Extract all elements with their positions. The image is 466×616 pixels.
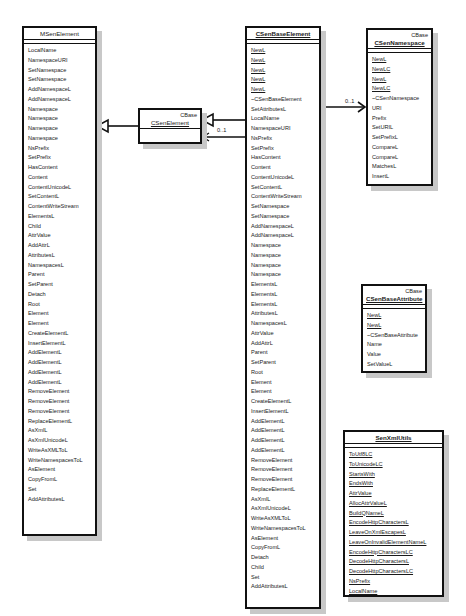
operation: ReplaceElementL — [251, 485, 319, 495]
class-csen-namespace[interactable]: CBase CSenNamespace NewLNewLCNewLNewLC~C… — [366, 28, 433, 186]
operation: CompareL — [372, 143, 431, 153]
operation: Parent — [28, 270, 95, 280]
operations-list: NewLNewL~CSenBaseAttributeNameValueSetVa… — [363, 309, 425, 370]
class-name: CSenBaseAttribute — [366, 295, 422, 303]
class-csen-element[interactable]: CBase CSenElement — [138, 108, 202, 144]
operation: SetParent — [28, 280, 95, 290]
operation: SetPrefix — [251, 144, 319, 154]
operation: Detach — [251, 553, 319, 563]
operation: SetContentL — [251, 183, 319, 193]
operation: AddNamespaceL — [251, 222, 319, 232]
static-operation: StartsWith — [349, 470, 442, 480]
operation: ~CSenBaseAttribute — [367, 331, 425, 341]
operation: Namespace — [251, 251, 319, 261]
operation: AsElement — [28, 465, 95, 475]
operation: AsElement — [251, 534, 319, 544]
operation: Set — [28, 485, 95, 495]
operation: AsXmlUnicodeL — [28, 436, 95, 446]
operation: RemoveElement — [251, 456, 319, 466]
static-operation: BuildQNameL — [349, 509, 442, 519]
operation: AddAttrL — [251, 339, 319, 349]
operation: AddNamespaceL — [251, 231, 319, 241]
operation: WriteAsXMLToL — [251, 514, 319, 524]
class-csen-base-attribute[interactable]: CBase CSenBaseAttribute NewLNewL~CSenBas… — [361, 284, 427, 373]
operation: CopyFromL — [251, 543, 319, 553]
operation: AddNamespaceL — [28, 95, 95, 105]
operation: SetPrefix — [28, 153, 95, 163]
operation: RemoveElement — [251, 465, 319, 475]
operation: WriteAsXMLToL — [28, 446, 95, 456]
operation: ContentWriteStream — [251, 192, 319, 202]
operation: Prefix — [372, 114, 431, 124]
operation: Root — [28, 300, 95, 310]
class-name: SenXmlUtils — [348, 434, 439, 442]
multiplicity-label-namespace: 0..1 — [345, 98, 354, 104]
operation: SetValueL — [367, 360, 425, 370]
class-stereotype: CBase — [366, 288, 422, 295]
operation: Child — [28, 222, 95, 232]
operation: CopyFromL — [28, 475, 95, 485]
class-csen-base-element[interactable]: CSenBaseElement NewLNewLNewLNewLNewL~CSe… — [245, 26, 321, 609]
static-operation: NewL — [372, 75, 431, 85]
class-sen-xml-utils[interactable]: SenXmlUtils ToUtf8LCToUnicodeLCStartsWit… — [343, 430, 444, 597]
class-name: CSenBaseElement — [250, 30, 316, 38]
operation: ElementsL — [251, 300, 319, 310]
operations-list: NewLNewLCNewLNewLC~CSenNamespaceURIPrefi… — [368, 53, 431, 182]
operation: AddAttributesL — [28, 495, 95, 505]
static-operation: EncodeHttpCharactersLC — [349, 548, 442, 558]
operation: WriteNamespacesToL — [251, 524, 319, 534]
static-operation: ToUnicodeLC — [349, 460, 442, 470]
static-operation: LeaveOnInvalidElementNameL — [349, 538, 442, 548]
class-header: CBase CSenBaseAttribute — [363, 286, 425, 305]
static-operation: DecodeHttpCharactersL — [349, 557, 442, 567]
generalization-arrowhead-icon — [202, 114, 213, 126]
class-header: MSenElement — [24, 28, 95, 40]
operation: HasContent — [251, 153, 319, 163]
operation: RemoveElement — [251, 475, 319, 485]
static-operation: NewL — [251, 56, 319, 66]
operations-list: NewLNewLNewLNewLNewL~CSenBaseElementSetA… — [247, 44, 319, 592]
operation: MatchesL — [372, 162, 431, 172]
operation: NsPrefix — [251, 134, 319, 144]
operation: AddNamespaceL — [28, 85, 95, 95]
static-operation: NewL — [251, 46, 319, 56]
operation: AddElementL — [251, 426, 319, 436]
operation: LocalName — [251, 114, 319, 124]
generalization-arrowhead-icon — [97, 120, 108, 132]
static-operation: NewLC — [372, 84, 431, 94]
static-operation: NsPrefix — [349, 577, 442, 587]
operation: LocalName — [28, 46, 95, 56]
class-header: CBase CSenElement — [140, 110, 200, 129]
operation: AttributesL — [28, 251, 95, 261]
operation: Element — [251, 387, 319, 397]
operation: AttributesL — [251, 309, 319, 319]
operation: RemoveElement — [28, 407, 95, 417]
operation: AddElementL — [28, 358, 95, 368]
operation: ElementsL — [251, 290, 319, 300]
operation: Element — [28, 309, 95, 319]
operation: Namespace — [28, 134, 95, 144]
operation: Root — [251, 368, 319, 378]
static-operation: NewL — [367, 311, 425, 321]
operation: Element — [251, 378, 319, 388]
operation: ContentWriteStream — [28, 202, 95, 212]
operation: Element — [28, 319, 95, 329]
static-operation: LocalName — [349, 587, 442, 597]
operation: URI — [372, 104, 431, 114]
operation: ContentUnicodeL — [28, 183, 95, 193]
operation: SetNamespace — [28, 75, 95, 85]
operation: SetParent — [251, 358, 319, 368]
operation: AddElementL — [251, 436, 319, 446]
operation: AttrValue — [28, 231, 95, 241]
static-operation: EncodeHttpCharactersL — [349, 518, 442, 528]
operation: Value — [367, 350, 425, 360]
operation: AddAttrL — [28, 241, 95, 251]
operation: Namespace — [251, 261, 319, 271]
class-msen-element[interactable]: MSenElement LocalNameNamespaceURISetName… — [22, 26, 97, 536]
operation: SetNamespace — [251, 212, 319, 222]
class-name: CSenElement — [143, 119, 197, 127]
class-name: MSenElement — [27, 30, 92, 38]
operation: SetURIL — [372, 123, 431, 133]
operation: AsXmlL — [251, 495, 319, 505]
operation: ~CSenBaseElement — [251, 95, 319, 105]
